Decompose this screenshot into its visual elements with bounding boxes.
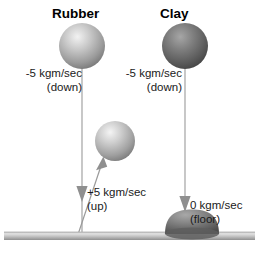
label-clay-down-value: -5 kgm/sec xyxy=(126,67,182,79)
clay-ball-falling xyxy=(162,23,208,69)
title-rubber: Rubber xyxy=(52,6,99,21)
momentum-diagram: Rubber Clay -5 kgm/sec (down) -5 kgm/sec… xyxy=(0,0,259,261)
label-rubber-up-value: +5 kgm/sec xyxy=(87,186,146,198)
rubber-ball-bouncing xyxy=(95,121,135,161)
label-rubber-down-value: -5 kgm/sec xyxy=(26,67,82,79)
rubber-downward-arrowhead xyxy=(76,186,87,202)
label-rubber-down: -5 kgm/sec (down) xyxy=(8,66,82,94)
label-clay-down-direction: (down) xyxy=(104,80,182,94)
label-clay-floor-direction: (floor) xyxy=(190,212,259,226)
title-clay: Clay xyxy=(160,6,189,21)
label-rubber-up: +5 kgm/sec (up) xyxy=(87,185,171,213)
label-rubber-down-direction: (down) xyxy=(8,80,82,94)
clay-splat-base xyxy=(165,228,219,240)
label-clay-down: -5 kgm/sec (down) xyxy=(104,66,182,94)
label-clay-floor-value: 0 kgm/sec xyxy=(190,199,242,211)
rubber-ball-falling xyxy=(59,23,105,69)
label-rubber-up-direction: (up) xyxy=(87,199,171,213)
label-clay-floor: 0 kgm/sec (floor) xyxy=(190,198,259,226)
